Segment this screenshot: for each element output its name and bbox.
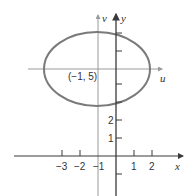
x-tick-label: −1 <box>93 161 105 172</box>
y-axis-label: y <box>120 12 126 24</box>
u-axis-label: u <box>160 72 166 84</box>
y-tick-label: 1 <box>108 133 114 144</box>
x-tick-label: 1 <box>131 161 137 172</box>
x-tick-label: −3 <box>56 161 68 172</box>
x-tick-label: −2 <box>74 161 86 172</box>
center-label: (−1, 5) <box>68 71 97 82</box>
x-axis-label: x <box>174 160 180 172</box>
ellipse-diagram: v y u x (−1, 5) −3 −2 −1 1 2 1 2 <box>0 0 193 196</box>
v-axis-label: v <box>102 12 107 24</box>
x-tick-label: 2 <box>149 161 155 172</box>
x-ticks <box>62 150 152 156</box>
y-tick-label: 2 <box>108 115 114 126</box>
